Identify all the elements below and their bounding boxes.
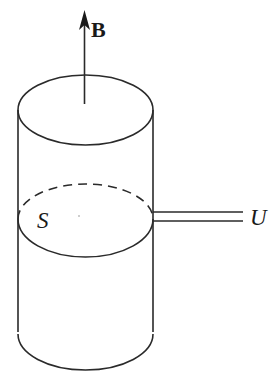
cylinder-top-ellipse bbox=[18, 75, 153, 145]
field-label-b: B bbox=[91, 17, 106, 42]
loop-center-dot bbox=[78, 215, 79, 216]
cylinder-bottom-arc bbox=[18, 334, 153, 370]
cylinder-diagram: B S U bbox=[0, 0, 280, 390]
area-label-s: S bbox=[37, 208, 49, 233]
voltage-label-u: U bbox=[250, 205, 268, 230]
